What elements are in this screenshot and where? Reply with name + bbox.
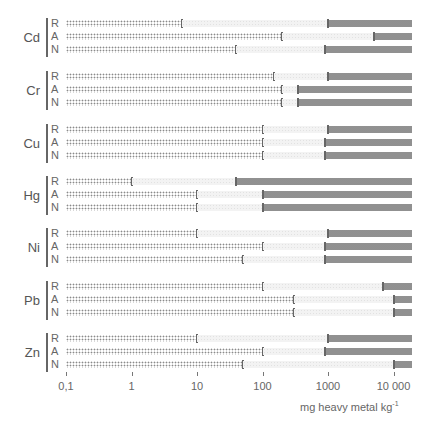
bar-low-range — [66, 348, 263, 355]
x-axis-unit-label: mg heavy metal kg-1 — [300, 400, 399, 413]
bar-gap-range — [263, 283, 384, 290]
group-bracket-line — [46, 18, 48, 57]
bar-low-range — [66, 126, 263, 133]
x-axis-tick-label: 1 — [128, 380, 134, 392]
bar-high-range — [298, 86, 412, 93]
bar-low-range — [66, 73, 274, 80]
bar-high-range — [325, 256, 412, 263]
bar-gap-range — [263, 126, 329, 133]
bar-high-range — [394, 309, 413, 316]
group-bracket-line — [46, 228, 48, 267]
bar-low-range — [66, 335, 197, 342]
metal-label-cr: Cr — [0, 83, 40, 98]
bar-high-start-cap — [327, 334, 329, 343]
bar-low-range — [66, 309, 294, 316]
bar-high-range — [328, 126, 412, 133]
group-bracket-line — [46, 176, 48, 215]
bar-high-start-cap — [324, 151, 326, 160]
bar-gap-range — [294, 309, 394, 316]
bar-low-range — [66, 296, 294, 303]
x-axis-tick — [328, 372, 329, 376]
bar-high-range — [383, 283, 412, 290]
bar-high-start-cap — [324, 45, 326, 54]
bar-gap-range — [197, 204, 263, 211]
bar-high-start-cap — [324, 242, 326, 251]
bar-high-start-cap — [262, 190, 264, 199]
row-label-n: N — [51, 97, 59, 108]
row-label-n: N — [51, 359, 59, 370]
bar-high-range — [328, 73, 412, 80]
bar-gap-range — [282, 33, 374, 40]
bar-low-range — [66, 139, 263, 146]
bar-high-range — [325, 348, 412, 355]
metal-label-pb: Pb — [0, 293, 40, 308]
bar-high-start-cap — [373, 32, 375, 41]
bar-high-range — [394, 361, 413, 368]
bar-gap-range — [274, 73, 328, 80]
bar-high-range — [374, 33, 412, 40]
bar-low-range — [66, 204, 197, 211]
bar-high-start-cap — [327, 125, 329, 134]
x-axis-unit-text: mg heavy metal kg — [300, 401, 392, 413]
bar-high-start-cap — [297, 98, 299, 107]
bar-low-range — [66, 152, 263, 159]
bar-high-start-cap — [262, 203, 264, 212]
x-axis-tick-label: 10 000 — [377, 380, 411, 392]
bar-gap-range — [263, 139, 326, 146]
bar-high-range — [328, 20, 412, 27]
row-label-n: N — [51, 44, 59, 55]
x-axis-tick-label: 0,1 — [58, 380, 73, 392]
row-label-r: R — [51, 18, 59, 29]
bar-gap-range — [197, 335, 328, 342]
bar-high-start-cap — [327, 72, 329, 81]
bar-low-range — [66, 243, 263, 250]
bar-low-range — [66, 256, 243, 263]
row-label-n: N — [51, 202, 59, 213]
row-label-a: A — [51, 84, 58, 95]
bar-low-range — [66, 33, 282, 40]
bar-gap-range — [243, 361, 394, 368]
row-label-a: A — [51, 189, 58, 200]
bar-high-range — [325, 46, 412, 53]
bar-gap-range — [263, 243, 326, 250]
bar-high-range — [394, 296, 413, 303]
bar-high-range — [325, 139, 412, 146]
bar-gap-range — [132, 178, 237, 185]
bar-gap-range — [263, 348, 326, 355]
bar-high-start-cap — [382, 282, 384, 291]
bar-low-range — [66, 86, 282, 93]
group-bracket-line — [46, 333, 48, 372]
bar-low-range — [66, 20, 182, 27]
bar-high-start-cap — [393, 295, 395, 304]
bar-gap-range — [197, 230, 328, 237]
group-bracket-line — [46, 281, 48, 320]
row-label-n: N — [51, 307, 59, 318]
bar-low-range — [66, 46, 236, 53]
bar-high-range — [236, 178, 412, 185]
bar-high-start-cap — [235, 177, 237, 186]
row-label-a: A — [51, 346, 58, 357]
x-axis-tick-label: 10 — [191, 380, 203, 392]
metal-label-cu: Cu — [0, 136, 40, 151]
bar-gap-range — [282, 86, 298, 93]
bar-gap-range — [294, 296, 394, 303]
bar-high-start-cap — [393, 360, 395, 369]
group-bracket-line — [46, 71, 48, 110]
row-label-n: N — [51, 254, 59, 265]
row-label-a: A — [51, 137, 58, 148]
x-axis-tick — [197, 372, 198, 376]
x-axis-tick-label: 100 — [253, 380, 271, 392]
bar-low-range — [66, 230, 197, 237]
bar-high-start-cap — [297, 85, 299, 94]
bar-high-range — [263, 204, 413, 211]
x-axis-tick — [394, 372, 395, 376]
bar-gap-range — [197, 191, 263, 198]
bar-gap-range — [182, 20, 328, 27]
x-axis-tick — [263, 372, 264, 376]
x-axis-tick-label: 1000 — [316, 380, 340, 392]
row-label-r: R — [51, 71, 59, 82]
row-label-a: A — [51, 241, 58, 252]
bar-high-range — [298, 99, 412, 106]
metal-label-hg: Hg — [0, 188, 40, 203]
x-axis-tick — [132, 372, 133, 376]
